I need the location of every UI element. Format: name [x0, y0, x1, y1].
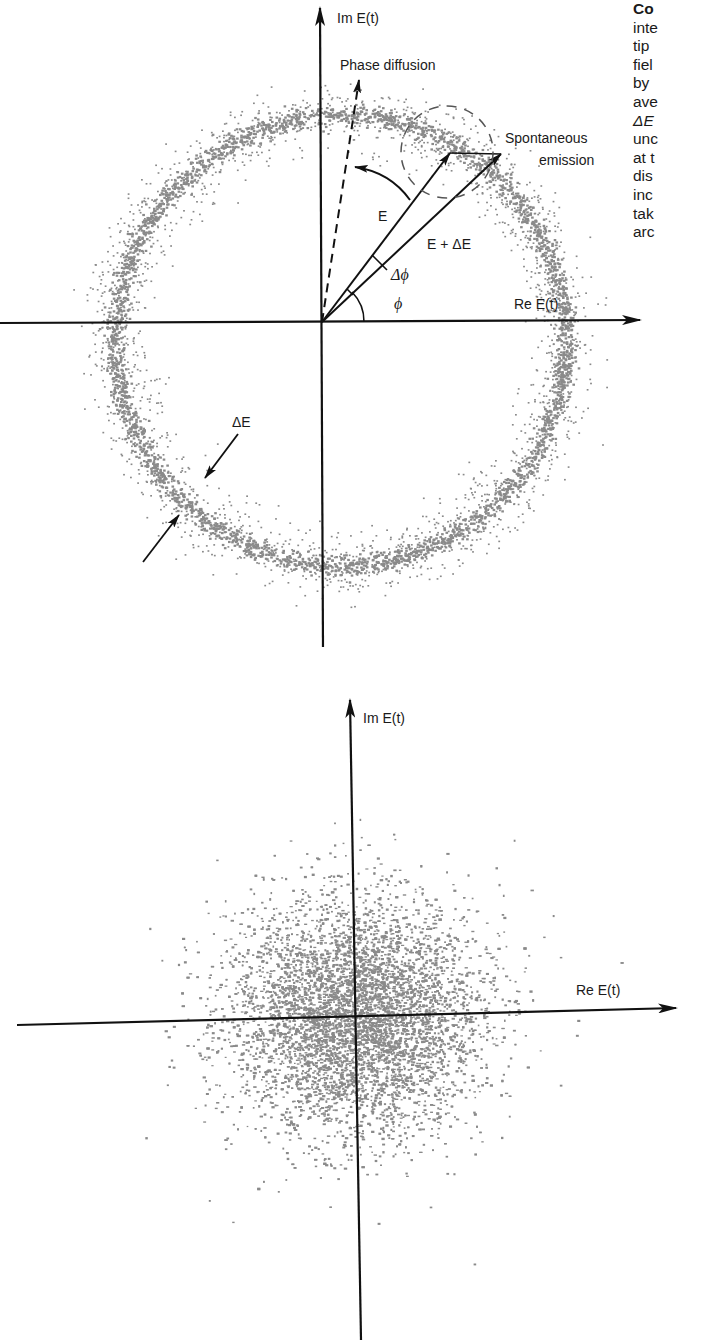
re-axis-top	[0, 320, 640, 323]
caption-line: inte	[633, 19, 658, 38]
caption-line: at t	[633, 149, 658, 168]
caption-line: tak	[633, 205, 658, 224]
caption-line: inc	[633, 186, 658, 205]
phi-label: ϕ	[394, 295, 402, 313]
delta-e-arrow-outer	[205, 434, 238, 478]
im-axis-bottom	[350, 700, 361, 1340]
phase-rotation-arrow	[355, 167, 410, 200]
caption-line: unc	[633, 130, 658, 149]
delta-phi-label: Δϕ	[391, 266, 409, 284]
delta-e-arrow-inner	[143, 515, 179, 562]
im-axis-label-bottom: Im E(t)	[363, 710, 405, 726]
caption-line: fiel	[633, 56, 658, 75]
spontaneous-emission-label-1: Spontaneous	[505, 130, 588, 146]
phasor-E-plus-dE	[322, 154, 501, 322]
phase-diffusion-label: Phase diffusion	[340, 57, 435, 73]
re-axis-label-bottom: Re E(t)	[576, 982, 620, 998]
thermal-field-cloud	[145, 819, 623, 1266]
figure-caption: Co inte tip fiel by ave ΔE unc at t dis …	[633, 0, 658, 242]
im-axis-label-top: Im E(t)	[337, 10, 379, 26]
caption-line: dis	[633, 167, 658, 186]
vector-e-label: E	[378, 208, 387, 224]
caption-line: Co	[633, 0, 658, 19]
phi-angle-arc	[352, 292, 364, 322]
spontaneous-emission-label-2: emission	[539, 152, 594, 168]
caption-line: tip	[633, 37, 658, 56]
re-axis-label-top: Re E(t)	[514, 296, 558, 312]
caption-line: ave	[633, 93, 658, 112]
spontaneous-emission-circle	[401, 106, 493, 198]
amplitude-noise-ring	[73, 83, 608, 608]
figure-canvas	[0, 0, 709, 1343]
caption-line: arc	[633, 223, 658, 242]
im-axis-top	[320, 8, 323, 647]
caption-line: ΔE	[633, 112, 658, 131]
vector-e-plus-de-label: E + ΔE	[427, 236, 471, 252]
caption-line: by	[633, 74, 658, 93]
delta-e-label: ΔE	[232, 414, 251, 430]
